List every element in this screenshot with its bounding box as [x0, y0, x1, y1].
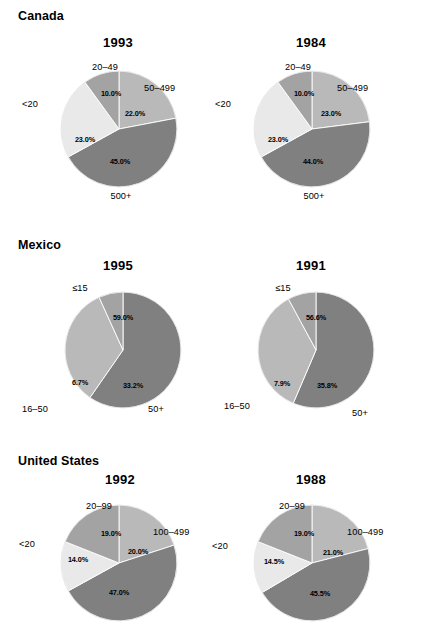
- cat-label-us-1992-20-99: 20–99: [86, 501, 112, 511]
- chart-year-canada-1984: 1984: [296, 35, 326, 50]
- chart-year-canada-1993: 1993: [103, 35, 133, 50]
- slice-value-canada-1993-50-499: 22.0%: [125, 109, 145, 118]
- pie-mexico-1991: [257, 291, 375, 409]
- slice-value-canada-1993-under20: 23.0%: [75, 135, 95, 144]
- cat-label-canada-1993-50-499: 50–499: [144, 83, 175, 93]
- pie-mexico-1995: [64, 291, 182, 409]
- slice-value-canada-1993-500plus: 45.0%: [110, 157, 130, 166]
- slice-value-us-1992-under20: 14.0%: [68, 555, 88, 564]
- cat-label-mexico-1991-16-50: 16–50: [224, 401, 250, 411]
- slice-value-us-1988-20-99: 19.0%: [294, 529, 314, 538]
- slice-value-us-1992-100-499: 20.0%: [128, 547, 148, 556]
- pie-mexico-1991-svg: [257, 291, 375, 409]
- slice-value-canada-1984-500plus: 44.0%: [303, 157, 323, 166]
- chart-year-mexico-1995: 1995: [103, 258, 133, 273]
- chart-year-mexico-1991: 1991: [296, 258, 326, 273]
- pie-sector-50-499: [312, 71, 370, 129]
- slice-value-mexico-1995-50plus: 33.2%: [123, 381, 143, 390]
- cat-label-us-1988-100-499: 100–499: [347, 527, 383, 537]
- slice-value-mexico-1995-lte15: 59.0%: [113, 313, 133, 322]
- cat-label-mexico-1995-16-50: 16–50: [22, 404, 48, 414]
- cat-label-canada-1993-500plus: 500+: [110, 191, 131, 201]
- cat-label-mexico-1991-lte15: ≤15: [275, 283, 291, 293]
- slice-value-canada-1984-20-49: 10.0%: [294, 89, 314, 98]
- slice-value-mexico-1995-16-50: 6.7%: [72, 378, 88, 387]
- panel-canada: Canada 1993 1984 22.0% 45.0% 23.0% 10.0%…: [0, 0, 426, 210]
- slice-value-canada-1984-50-499: 23.0%: [321, 109, 341, 118]
- slice-value-mexico-1991-16-50: 7.9%: [274, 379, 290, 388]
- cat-label-us-1988-20-99: 20–99: [279, 501, 305, 511]
- panel-mexico: Mexico 1995 1991 59.0% 33.2% 6.7% ≤15 16…: [0, 210, 426, 425]
- cat-label-canada-1984-500plus: 500+: [303, 191, 324, 201]
- panel-united-states: United States 1992 1988 20.0% 47.0% 14.0…: [0, 425, 426, 599]
- cat-label-us-1988-under20: <20: [212, 541, 228, 551]
- cat-label-canada-1984-under20: <20: [215, 99, 231, 109]
- slice-value-mexico-1991-lte15: 56.6%: [306, 313, 326, 322]
- slice-value-canada-1984-under20: 23.0%: [268, 135, 288, 144]
- cat-label-mexico-1995-lte15: ≤15: [72, 283, 88, 293]
- slice-value-us-1992-500plus: 47.0%: [109, 588, 129, 597]
- slice-value-mexico-1991-50plus: 35.8%: [317, 381, 337, 390]
- pie-mexico-1995-svg: [64, 291, 182, 409]
- cat-label-mexico-1991-50plus: 50+: [352, 408, 368, 418]
- cat-label-us-1992-under20: <20: [19, 539, 35, 549]
- cat-label-mexico-1995-50plus: 50+: [148, 404, 164, 414]
- cat-label-canada-1984-50-499: 50–499: [337, 83, 368, 93]
- cat-label-canada-1984-20-49: 20–49: [285, 62, 311, 72]
- slice-value-us-1988-under20: 14.5%: [264, 557, 284, 566]
- cat-label-us-1992-100-499: 100–499: [153, 527, 189, 537]
- cat-label-canada-1993-under20: <20: [22, 99, 38, 109]
- country-title-canada: Canada: [18, 9, 64, 23]
- country-title-mexico: Mexico: [18, 238, 61, 252]
- slice-value-us-1988-100-499: 21.0%: [323, 548, 343, 557]
- country-title-united-states: United States: [18, 454, 99, 468]
- cat-label-canada-1993-20-49: 20–49: [92, 62, 118, 72]
- slice-value-us-1992-20-99: 19.0%: [101, 529, 121, 538]
- chart-year-us-1988: 1988: [296, 472, 326, 487]
- chart-year-us-1992: 1992: [105, 472, 135, 487]
- slice-value-canada-1993-20-49: 10.0%: [101, 89, 121, 98]
- slice-value-us-1988-500plus: 45.5%: [310, 589, 330, 598]
